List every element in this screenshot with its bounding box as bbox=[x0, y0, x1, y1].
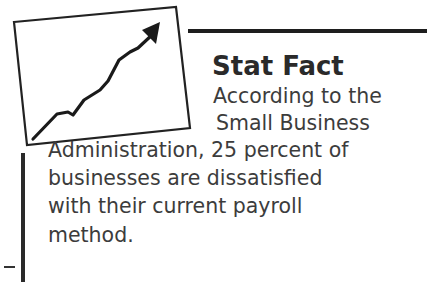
body-line-1: According to the bbox=[213, 83, 382, 109]
rising-chart-icon bbox=[12, 4, 197, 149]
top-rule-divider bbox=[188, 29, 427, 33]
body-line-4: businesses are dissatisfied bbox=[48, 165, 322, 191]
stat-fact-sidebar: Stat Fact According to the Small Busines… bbox=[0, 0, 427, 282]
body-line-6: method. bbox=[48, 222, 134, 248]
margin-tick-mark bbox=[4, 266, 15, 268]
body-line-5: with their current payroll bbox=[48, 193, 302, 219]
left-rule-divider bbox=[21, 153, 25, 282]
body-line-3: Administration, 25 percent of bbox=[48, 137, 348, 163]
body-line-2: Small Business bbox=[216, 110, 370, 136]
sidebar-title: Stat Fact bbox=[212, 51, 344, 81]
